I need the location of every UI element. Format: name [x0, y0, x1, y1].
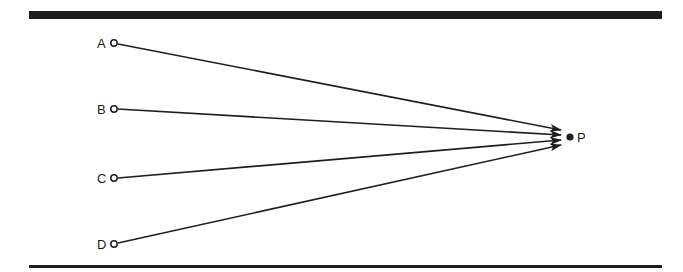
diagram-canvas: A B C D P [0, 0, 683, 272]
label-c: C [97, 172, 106, 185]
label-a: A [97, 37, 106, 50]
point-p-filled-dot [566, 133, 573, 140]
point-d-open-circle [111, 241, 117, 247]
point-a-open-circle [111, 40, 117, 46]
arrow-a-to-p [118, 44, 561, 130]
label-p: P [577, 131, 586, 144]
point-b-open-circle [111, 106, 117, 112]
point-c-open-circle [111, 175, 117, 181]
label-b: B [97, 103, 106, 116]
label-d: D [97, 238, 106, 251]
arrow-b-to-p [118, 109, 561, 135]
